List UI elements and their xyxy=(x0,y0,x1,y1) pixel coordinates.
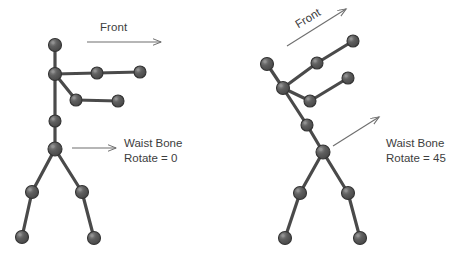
joint-arm-b-mid xyxy=(70,94,82,106)
joint-arm-a-mid xyxy=(91,67,103,79)
diagram-canvas: Front Front Waist Bone Rotate = 0 Waist … xyxy=(0,0,454,256)
waist-caption-right-rotate: Rotate = 45 xyxy=(386,151,446,166)
bone-waist-to-knee-right xyxy=(55,149,82,192)
joint-arm-b-mid xyxy=(304,95,316,107)
joint-knee-left xyxy=(294,187,307,200)
joint-arm-b-end xyxy=(112,95,124,107)
joint-foot-right xyxy=(88,232,101,245)
joint-knee-left xyxy=(26,186,39,199)
bone-knee-right-to-foot-right xyxy=(82,192,94,238)
joint-head xyxy=(261,58,274,71)
joint-spine xyxy=(49,115,61,127)
bones-group xyxy=(22,41,360,238)
joint-neck xyxy=(277,82,290,95)
joint-spine xyxy=(301,119,313,131)
waist-caption-left-rotate: Rotate = 0 xyxy=(124,151,182,166)
joint-arm-b-end xyxy=(342,72,354,84)
joints-group xyxy=(16,35,367,245)
bone-knee-left-to-foot-left xyxy=(285,193,300,238)
front-label-left: Front xyxy=(100,21,127,33)
joint-arm-a-mid xyxy=(311,57,323,69)
bone-arm-b-mid-to-arm-b-end xyxy=(310,78,348,101)
joint-knee-right xyxy=(76,186,89,199)
joint-arm-a-end xyxy=(347,35,359,47)
joint-arm-a-end xyxy=(134,66,146,78)
skeleton-diagram xyxy=(0,0,454,256)
joint-head xyxy=(49,39,62,52)
joint-waist xyxy=(316,145,330,159)
waist-caption-right: Waist Bone Rotate = 45 xyxy=(386,136,446,166)
waist-pointer-arrow-figure-right xyxy=(333,117,379,146)
joint-foot-left xyxy=(16,231,29,244)
waist-caption-left: Waist Bone Rotate = 0 xyxy=(124,136,182,166)
joint-waist xyxy=(48,142,62,156)
joint-foot-right xyxy=(354,232,367,245)
waist-caption-left-title: Waist Bone xyxy=(124,136,182,151)
joint-knee-right xyxy=(342,187,355,200)
waist-caption-right-title: Waist Bone xyxy=(386,136,446,151)
joint-foot-left xyxy=(279,232,292,245)
joint-neck xyxy=(49,68,62,81)
